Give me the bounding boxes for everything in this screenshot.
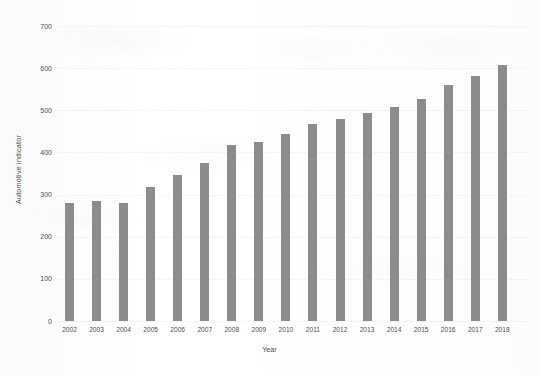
y-tick-label: 700 (22, 23, 52, 30)
x-tick-label: 2018 (485, 327, 519, 334)
gridline (58, 321, 528, 322)
bar (281, 134, 290, 321)
bar (498, 65, 507, 321)
gridline (58, 237, 528, 238)
y-tick-label: 200 (22, 233, 52, 240)
gridline (58, 279, 528, 280)
bar (146, 187, 155, 321)
bar (471, 76, 480, 321)
bar (200, 163, 209, 321)
y-axis-label: Automotive indicator (14, 60, 23, 280)
y-tick-label: 0 (22, 318, 52, 325)
bar (92, 201, 101, 321)
gridline (58, 195, 528, 196)
bar (363, 113, 372, 321)
bar (254, 142, 263, 321)
bar (390, 107, 399, 321)
y-tick-label: 100 (22, 275, 52, 282)
gridline (58, 110, 528, 111)
bar (119, 203, 128, 321)
bar (173, 175, 182, 321)
gridline (58, 68, 528, 69)
y-tick-label: 600 (22, 65, 52, 72)
y-tick-label: 300 (22, 191, 52, 198)
bar (65, 203, 74, 321)
gridline (58, 152, 528, 153)
bar (336, 119, 345, 321)
bar (444, 85, 453, 321)
plot-area: 0100200300400500600700 20022003200420052… (0, 0, 539, 375)
y-tick-label: 400 (22, 149, 52, 156)
bar (227, 145, 236, 321)
y-tick-label: 500 (22, 107, 52, 114)
x-axis-label: Year (0, 345, 539, 354)
bar (308, 124, 317, 321)
gridline (58, 26, 528, 27)
bar (417, 99, 426, 321)
bar-chart: 0100200300400500600700 20022003200420052… (0, 0, 539, 375)
